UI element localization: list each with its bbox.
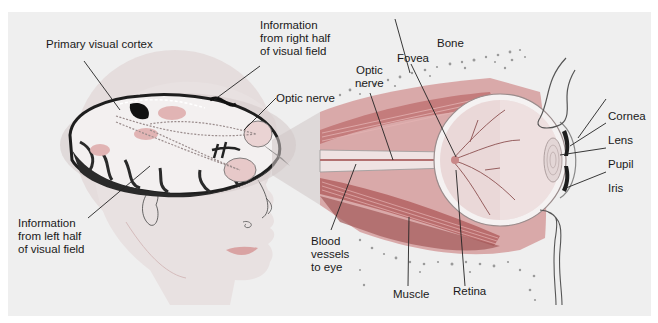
label-muscle: Muscle [393,288,429,301]
label-iris: Iris [608,182,623,195]
label-cornea: Cornea [608,110,646,123]
label-blood-vessels: Blood vessels to eye [311,235,349,274]
label-retina: Retina [453,285,486,298]
label-primary-visual-cortex: Primary visual cortex [46,38,153,51]
label-info-right-half: Information from right half of visual fi… [260,19,330,58]
brain-illustration [60,93,296,197]
label-fovea: Fovea [397,52,429,65]
label-info-left-half: Information from left half of visual fie… [18,217,84,256]
label-lens: Lens [608,134,633,147]
label-bone: Bone [437,37,464,50]
label-pupil: Pupil [608,158,634,171]
label-optic-nerve-eye: Optic nerve [355,64,384,90]
label-optic-nerve-brain: Optic nerve [276,92,335,105]
